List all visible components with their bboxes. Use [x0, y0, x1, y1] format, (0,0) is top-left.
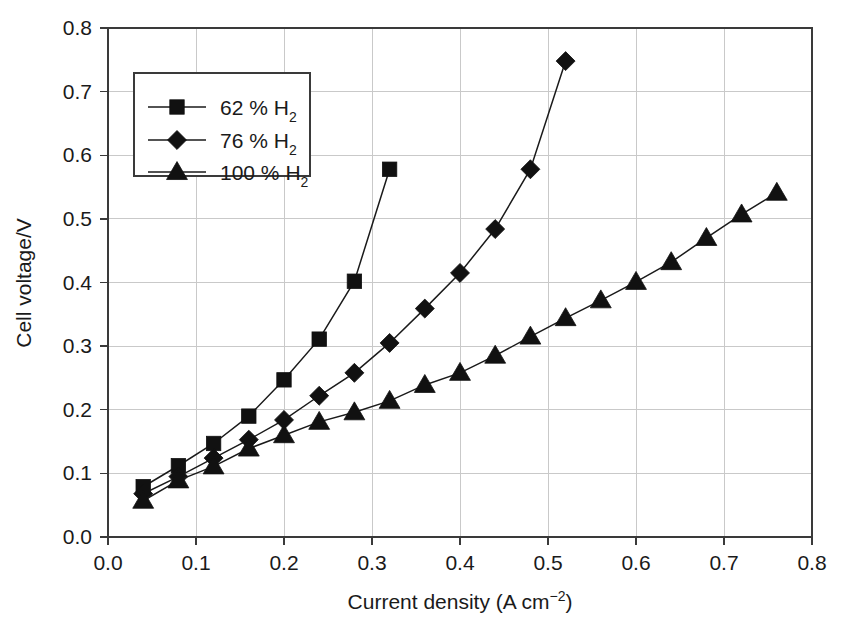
x-tick-label: 0.8	[797, 551, 826, 574]
x-tick-label: 0.7	[709, 551, 738, 574]
x-tick-label: 0.6	[621, 551, 650, 574]
y-tick-label: 0.3	[63, 334, 92, 357]
x-tick-label: 0.1	[181, 551, 210, 574]
x-tick-label: 0.3	[357, 551, 386, 574]
y-axis-title: Cell voltage/V	[12, 218, 35, 348]
figure-container: 0.00.10.20.30.40.50.60.70.80.00.10.20.30…	[0, 0, 846, 628]
y-tick-label: 0.8	[63, 16, 92, 39]
data-point-square	[382, 162, 396, 176]
y-tick-label: 0.1	[63, 461, 92, 484]
y-tick-label: 0.7	[63, 80, 92, 103]
x-tick-label: 0.4	[445, 551, 475, 574]
y-tick-label: 0.6	[63, 143, 92, 166]
x-tick-label: 0.2	[269, 551, 298, 574]
data-point-square	[242, 409, 256, 423]
y-tick-label: 0.5	[63, 207, 92, 230]
data-point-square	[277, 373, 291, 387]
x-axis-title: Current density (A cm−2)	[348, 588, 573, 613]
y-tick-label: 0.2	[63, 398, 92, 421]
data-point-square	[312, 332, 326, 346]
polarization-curve-chart: 0.00.10.20.30.40.50.60.70.80.00.10.20.30…	[0, 0, 846, 628]
x-tick-label: 0.0	[93, 551, 122, 574]
chart-legend: 62 % H276 % H2100 % H2	[134, 73, 310, 190]
x-tick-label: 0.5	[533, 551, 562, 574]
y-tick-label: 0.4	[63, 271, 93, 294]
legend-marker-square	[170, 100, 184, 114]
data-point-square	[347, 274, 361, 288]
y-tick-label: 0.0	[63, 525, 92, 548]
